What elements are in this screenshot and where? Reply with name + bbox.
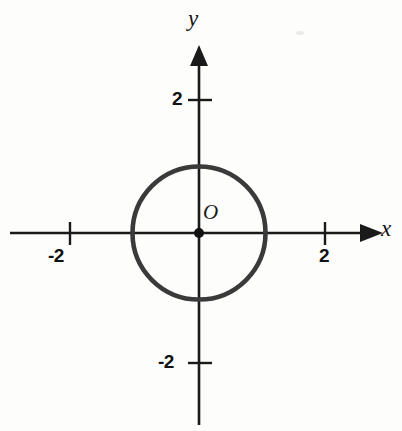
y-tick-label-negative-2: -2 [158,351,174,373]
origin-point-marker [194,228,204,238]
x-axis-arrowhead [360,224,383,242]
x-tick-label-positive-2: 2 [319,245,329,267]
x-tick-label-negative-2: -2 [48,245,64,267]
coordinate-plane-figure: y x O 2 -2 2 -2 [0,0,402,431]
y-axis-label: y [188,6,198,32]
x-axis-label: x [381,216,391,242]
y-axis-arrowhead [190,45,208,66]
origin-label: O [203,200,218,225]
y-tick-label-positive-2: 2 [172,88,182,110]
figure-canvas [0,0,402,431]
paper-speck [296,31,304,35]
